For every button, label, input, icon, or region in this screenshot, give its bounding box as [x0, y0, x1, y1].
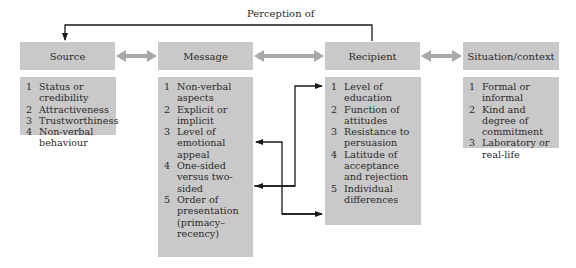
- double-arrow-source-message: [116, 50, 157, 62]
- list-item: 4One-sided versus two-sided: [164, 160, 250, 194]
- list-item: 3Trustworthiness: [26, 115, 113, 126]
- connector-message-to-recipient-1: [254, 86, 322, 186]
- list-item: 5Order of presentation (primacy–recency): [164, 194, 250, 239]
- feedback-arrow: [65, 25, 372, 41]
- source-header: Source: [20, 42, 115, 70]
- list-item: 3Resistance to persuasion: [331, 126, 418, 149]
- double-arrow-recipient-situation: [421, 50, 462, 62]
- situation-header: Situation/context: [463, 42, 559, 70]
- list-item: 2Function of attitudes: [331, 104, 418, 127]
- double-arrow-message-recipient: [254, 50, 324, 62]
- list-item: 5Individual differences: [331, 183, 418, 206]
- recipient-header: Recipient: [325, 42, 420, 70]
- list-item: 1Level of education: [331, 81, 418, 104]
- list-item: 4Non-verbal behaviour: [26, 126, 113, 149]
- list-item: 3Level of emotional appeal: [164, 126, 250, 160]
- list-item: 3Laboratory or real-life: [469, 137, 556, 160]
- list-item: 1Non-verbal aspects: [164, 81, 250, 104]
- connector-recipient-to-message-3: [256, 142, 322, 214]
- source-list: 1Status or credibility 2Attractiveness 3…: [20, 77, 116, 135]
- list-item: 2Explicit or implicit: [164, 104, 250, 127]
- list-item: 1Formal or informal: [469, 81, 556, 104]
- list-item: 1Status or credibility: [26, 81, 113, 104]
- list-item: 4Latitude of acceptance and rejection: [331, 149, 418, 183]
- message-header: Message: [158, 42, 253, 70]
- list-item: 2Kind and degree of commitment: [469, 104, 556, 138]
- situation-list: 1Formal or informal 2Kind and degree of …: [463, 77, 559, 148]
- list-item: 2Attractiveness: [26, 104, 113, 115]
- message-list: 1Non-verbal aspects 2Explicit or implici…: [158, 77, 253, 257]
- recipient-list: 1Level of education 2Function of attitud…: [325, 77, 421, 225]
- feedback-label: Perception of: [247, 8, 314, 19]
